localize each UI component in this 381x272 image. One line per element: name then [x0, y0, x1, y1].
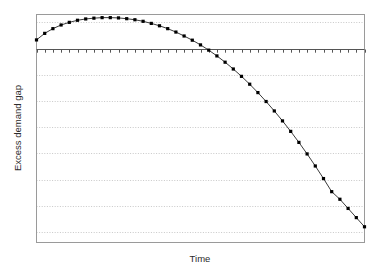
data-point-marker: [117, 16, 120, 19]
data-point-marker: [199, 43, 202, 46]
data-point-marker: [43, 32, 46, 35]
data-point-marker: [60, 23, 63, 26]
data-point-marker: [355, 216, 358, 219]
data-point-marker: [207, 49, 210, 52]
data-point-marker: [232, 67, 235, 70]
data-point-marker: [92, 17, 95, 20]
data-point-marker: [125, 17, 128, 20]
data-point-marker: [35, 38, 38, 41]
data-point-marker: [363, 225, 366, 228]
data-point-marker: [248, 83, 251, 86]
data-point-marker: [51, 27, 54, 30]
data-point-marker: [338, 198, 341, 201]
data-point-marker: [142, 20, 145, 23]
data-point-marker: [183, 34, 186, 37]
data-point-marker: [306, 152, 309, 155]
data-point-marker: [84, 17, 87, 20]
data-point-marker: [314, 164, 317, 167]
data-point-marker: [68, 21, 71, 24]
data-point-marker: [174, 30, 177, 33]
data-point-marker: [109, 16, 112, 19]
x-axis-label: Time: [190, 253, 211, 264]
data-point-marker: [289, 130, 292, 133]
data-point-marker: [240, 75, 243, 78]
data-point-marker: [281, 119, 284, 122]
data-point-marker: [322, 177, 325, 180]
data-point-marker: [297, 141, 300, 144]
y-axis-label: Excess demand gap: [12, 85, 23, 171]
data-point-marker: [265, 100, 268, 103]
chart-container: Excess demand gap Time: [0, 0, 381, 272]
data-point-marker: [158, 24, 161, 27]
data-point-marker: [150, 22, 153, 25]
data-point-marker: [273, 109, 276, 112]
data-point-marker: [76, 19, 79, 22]
data-point-marker: [166, 27, 169, 30]
data-point-marker: [133, 18, 136, 21]
data-point-marker: [215, 54, 218, 57]
data-point-marker: [347, 207, 350, 210]
data-point-marker: [256, 91, 259, 94]
excess-demand-gap-chart: Excess demand gap Time: [0, 0, 381, 272]
data-point-marker: [191, 39, 194, 42]
data-point-marker: [330, 190, 333, 193]
data-point-marker: [101, 16, 104, 19]
chart-background: [0, 0, 381, 272]
data-point-marker: [224, 61, 227, 64]
